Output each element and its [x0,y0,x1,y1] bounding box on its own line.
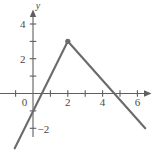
x-tick-label-2: 2 [65,96,71,108]
chart-figure: 0 2 4 6 4 2 −2 y [0,0,154,154]
plot-canvas: 0 2 4 6 4 2 −2 y [0,0,154,154]
y-tick-label-minus2: −2 [38,123,50,135]
x-axis-arrow-icon [144,90,152,96]
y-tick-label-4: 4 [20,18,26,30]
vertex-point-marker [65,39,70,44]
y-axis-name-label: y [35,0,41,11]
y-tick-label-2: 2 [20,53,26,65]
x-tick-label-4: 4 [100,96,106,108]
data-curve [15,41,146,148]
x-tick-label-0: 0 [22,96,28,108]
x-tick-label-6: 6 [135,96,141,108]
